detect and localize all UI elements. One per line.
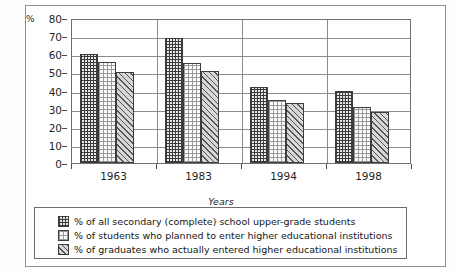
y-axis-tick-mark xyxy=(62,164,67,165)
x-axis-tick-mark xyxy=(411,164,412,169)
gridline xyxy=(72,38,410,39)
x-axis-tick-mark xyxy=(156,164,157,169)
x-axis-tick-label: 1994 xyxy=(270,170,297,182)
x-axis-tick-label: 1998 xyxy=(355,170,382,182)
group-separator xyxy=(157,20,158,163)
x-axis-title: Years xyxy=(26,196,416,207)
y-axis-tick-mark xyxy=(62,55,67,56)
y-axis-tick-column: 01020304050607080 xyxy=(34,8,66,168)
bar-1983-series2 xyxy=(183,63,201,163)
legend-swatch-icon xyxy=(58,244,69,255)
y-axis-tick-mark xyxy=(62,128,67,129)
group-separator xyxy=(327,20,328,163)
plot-region: % 01020304050607080 Years 19631983199419… xyxy=(26,8,416,168)
y-axis-tick-label: 60 xyxy=(49,50,62,60)
y-axis-tick-label: 70 xyxy=(49,32,62,42)
bar-1998-series2 xyxy=(353,107,371,163)
legend-swatch-icon xyxy=(58,216,69,227)
y-axis-tick-label: 20 xyxy=(49,123,62,133)
y-axis-tick-mark xyxy=(62,146,67,147)
bar-1963-series1 xyxy=(80,54,98,163)
legend-item-3: % of graduates who actually entered high… xyxy=(58,242,398,256)
x-axis-tick-mark xyxy=(241,164,242,169)
y-axis-tick-label: 40 xyxy=(49,87,62,97)
y-axis-tick-label: 10 xyxy=(49,141,62,151)
legend-label: % of all secondary (complete) school upp… xyxy=(74,216,355,227)
x-axis-tick-mark xyxy=(326,164,327,169)
chart-legend: % of all secondary (complete) school upp… xyxy=(34,207,407,259)
legend-swatch-icon xyxy=(58,230,69,241)
y-axis-tick-label: 50 xyxy=(49,68,62,78)
y-axis-tick-mark xyxy=(62,110,67,111)
legend-item-1: % of all secondary (complete) school upp… xyxy=(58,214,355,228)
y-axis-tick-mark xyxy=(62,73,67,74)
bar-1998-series3 xyxy=(371,112,389,163)
bar-1998-series1 xyxy=(335,91,353,164)
bar-1983-series1 xyxy=(165,38,183,163)
plot-area xyxy=(71,19,411,164)
y-axis-tick-mark xyxy=(62,37,67,38)
y-axis-tick-label: 30 xyxy=(49,105,62,115)
bar-1994-series2 xyxy=(268,100,286,163)
bar-1994-series1 xyxy=(250,87,268,163)
y-axis-tick-mark xyxy=(62,19,67,20)
legend-item-2: % of students who planned to enter highe… xyxy=(58,228,392,242)
y-axis-tick-mark xyxy=(62,92,67,93)
gridline xyxy=(72,56,410,57)
bar-1983-series3 xyxy=(201,71,219,163)
y-axis-tick-label: 80 xyxy=(49,14,62,24)
y-axis-tick-label: 0 xyxy=(55,159,62,169)
x-axis-tick-label: 1963 xyxy=(100,170,127,182)
legend-label: % of students who planned to enter highe… xyxy=(74,230,392,241)
bar-chart-figure: % 01020304050607080 Years 19631983199419… xyxy=(0,0,458,273)
x-axis-tick-mark xyxy=(71,164,72,169)
bar-1963-series2 xyxy=(98,62,116,164)
group-separator xyxy=(242,20,243,163)
bar-1963-series3 xyxy=(116,72,134,163)
x-axis-tick-label: 1983 xyxy=(185,170,212,182)
legend-label: % of graduates who actually entered high… xyxy=(74,244,398,255)
bar-1994-series3 xyxy=(286,103,304,163)
